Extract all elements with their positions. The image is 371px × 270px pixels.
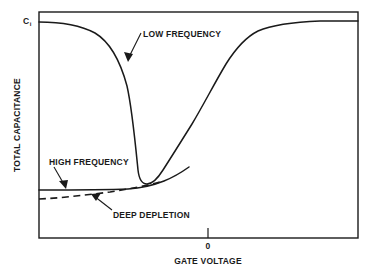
y-axis-label: TOTAL CAPACITANCE (12, 60, 22, 190)
leader-high-frequency-arrowhead (59, 180, 68, 189)
annotation-high-frequency: HIGH FREQUENCY (49, 157, 129, 167)
ci-symbol: C (23, 16, 29, 26)
plot-area (0, 0, 371, 270)
annotation-deep-depletion: DEEP DEPLETION (113, 210, 190, 220)
annotation-low-frequency: LOW FREQUENCY (143, 29, 221, 39)
leader-low-frequency-arrowhead (124, 52, 133, 62)
x-axis-zero-tick-label: 0 (195, 241, 221, 251)
x-axis-label: GATE VOLTAGE (148, 256, 268, 266)
y-axis-ci-tick-label: Ci (23, 16, 31, 26)
capacitance-voltage-figure: TOTAL CAPACITANCE GATE VOLTAGE Ci 0 LOW … (0, 0, 371, 270)
curve-high-frequency (39, 167, 189, 190)
plot-frame (39, 12, 358, 238)
ci-subscript: i (30, 21, 32, 27)
